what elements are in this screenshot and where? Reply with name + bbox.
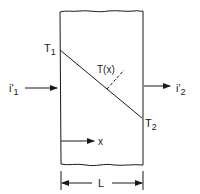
slab-left-face (60, 12, 61, 164)
slab-diagram: T1 T2 T(x) i'1 i'2 x L (0, 0, 200, 194)
i1-label: i'1 (9, 82, 19, 97)
t1-label: T1 (44, 42, 56, 57)
x-axis-label: x (98, 136, 103, 147)
i2-label: i'2 (176, 82, 186, 97)
length-label: L (98, 177, 104, 189)
temperature-profile-line (60, 50, 142, 118)
tx-label: T(x) (97, 64, 115, 75)
length-dimension: L (61, 171, 143, 190)
t2-label: T2 (145, 117, 157, 132)
slab-top-edge (60, 11, 143, 12)
slab-bottom-edge (61, 164, 143, 166)
